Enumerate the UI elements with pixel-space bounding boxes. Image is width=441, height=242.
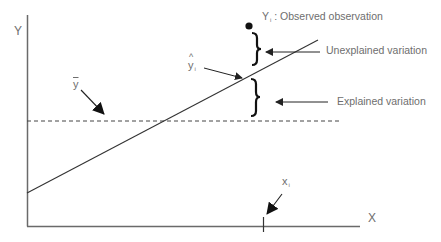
x-i-symbol: xi (282, 176, 290, 188)
observed-label: Yi : Observed observation (262, 11, 383, 23)
explained-brace (251, 79, 260, 116)
unexplained-brace (252, 33, 261, 65)
y-i-text: Y (262, 10, 269, 22)
hat-mark: ^ (189, 53, 193, 62)
y-i-sub: i (270, 17, 271, 23)
y-hat-arrow (204, 68, 242, 78)
x-i-text: x (282, 175, 288, 187)
y-hat-symbol: ^ yi (188, 60, 196, 72)
x-axis-label: X (368, 212, 376, 224)
observed-text: : Observed observation (274, 10, 383, 22)
y-bar-symbol: y (73, 79, 79, 90)
x-i-arrow (267, 194, 282, 214)
y-bar-text: y (73, 78, 79, 90)
explained-label: Explained variation (337, 96, 426, 107)
y-axis-label: Y (14, 25, 22, 37)
y-bar-arrow (81, 90, 104, 114)
observed-point (245, 22, 252, 29)
regression-line (27, 40, 318, 193)
unexplained-label: Unexplained variation (326, 45, 427, 56)
x-i-sub: i (289, 182, 290, 188)
regression-diagram (0, 0, 441, 242)
y-hat-sub: i (195, 66, 196, 72)
